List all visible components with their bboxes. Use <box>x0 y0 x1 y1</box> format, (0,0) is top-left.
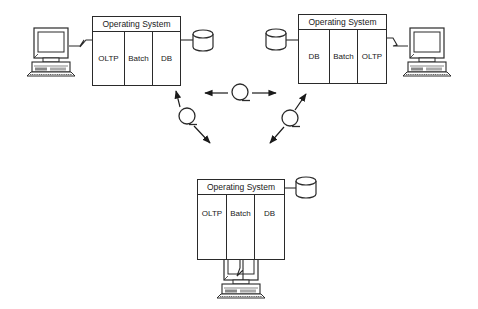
os-header: Operating System <box>198 180 284 195</box>
communication-loop-icon-right <box>282 110 300 127</box>
arrow-to-top-left-diag <box>176 91 180 107</box>
database-cylinder-icon-top-left <box>193 30 213 51</box>
component-batch: Batch <box>125 32 153 85</box>
network-diagram-canvas <box>0 0 478 309</box>
system-node-top-left: Operating System OLTP Batch DB <box>92 16 181 86</box>
communication-loop-icon-top <box>232 84 250 101</box>
database-cylinder-icon-top-right <box>266 29 286 50</box>
system-node-bottom: Operating System OLTP Batch DB <box>197 179 285 260</box>
component-db: DB <box>153 32 180 85</box>
arrow-to-bottom-left-diag <box>194 126 210 143</box>
component-oltp: OLTP <box>198 195 227 259</box>
system-node-top-right: Operating System DB Batch OLTP <box>298 14 387 84</box>
component-db: DB <box>299 30 330 83</box>
os-header: Operating System <box>93 17 180 32</box>
database-cylinder-icon-bottom <box>296 177 316 198</box>
link-left-terminal <box>69 40 92 47</box>
arrow-to-bottom-right-diag <box>270 127 284 143</box>
component-oltp: OLTP <box>358 30 386 83</box>
computer-terminal-icon-right <box>403 28 451 76</box>
arrow-to-top-right-diag <box>295 94 306 110</box>
os-header: Operating System <box>299 15 386 30</box>
link-right-terminal <box>387 38 408 46</box>
component-batch: Batch <box>227 195 255 259</box>
component-batch: Batch <box>330 30 358 83</box>
component-oltp: OLTP <box>93 32 125 85</box>
computer-terminal-icon-left <box>27 28 75 76</box>
component-db: DB <box>255 195 284 259</box>
communication-loop-icon-left <box>179 108 197 125</box>
